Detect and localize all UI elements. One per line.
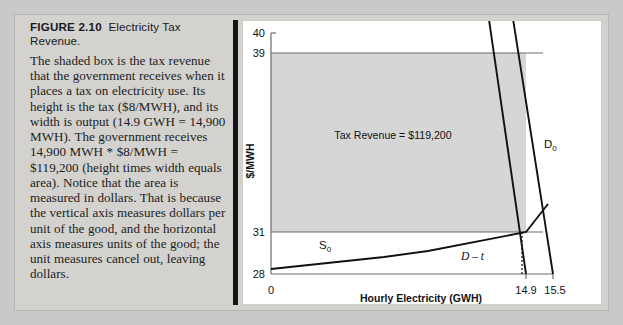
figure-caption: FIGURE 2.10 Electricity Tax Revenue. The… — [30, 20, 226, 305]
figure-root: FIGURE 2.10 Electricity Tax Revenue. The… — [0, 0, 623, 325]
demand-after-tax-label: D – t — [460, 250, 485, 262]
figure-title: FIGURE 2.10 Electricity Tax Revenue. — [30, 20, 226, 49]
figure-number: FIGURE 2.10 — [30, 20, 102, 33]
tax-revenue-annotation: Tax Revenue = $119,200 — [334, 129, 451, 141]
x-tick-label-0: 0 — [268, 284, 274, 296]
y-tick-label-31: 31 — [253, 226, 265, 238]
x-axis-label: Hourly Electricity (GWH) — [360, 292, 482, 304]
chart-panel: 40 39 31 28 0 14.9 15.5 Tax Revenue = $1… — [242, 20, 602, 305]
y-tick-label-28: 28 — [253, 268, 265, 280]
demand-curve-label-main: D — [544, 138, 552, 150]
supply-curve-label-sub: 0 — [327, 245, 332, 254]
x-tick-label-14-9: 14.9 — [515, 284, 536, 296]
chart-svg: 40 39 31 28 0 14.9 15.5 Tax Revenue = $1… — [243, 21, 601, 304]
y-axis-label: $/MWH — [244, 144, 256, 179]
tax-revenue-box — [271, 53, 526, 232]
demand-curve-label-sub: 0 — [552, 144, 557, 153]
caption-chart-divider — [233, 20, 238, 305]
demand-curve-label: D0 — [544, 138, 557, 153]
figure-body-text: The shaded box is the tax revenue that t… — [30, 53, 226, 282]
supply-curve-label: S0 — [319, 239, 332, 254]
y-tick-label-39: 39 — [253, 47, 265, 59]
y-tick-label-40: 40 — [253, 27, 265, 39]
x-tick-label-15-5: 15.5 — [544, 284, 565, 296]
